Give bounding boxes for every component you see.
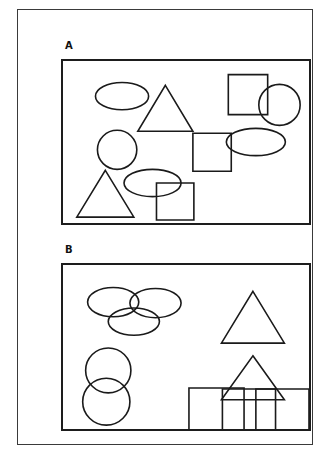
shape-square (193, 133, 231, 171)
shape-circle (83, 378, 130, 425)
shape-square (256, 389, 309, 429)
panel-a-label: A (65, 41, 73, 51)
outer-frame: A B (17, 9, 313, 445)
shape-ellipse (88, 287, 139, 316)
shape-triangle (221, 291, 284, 343)
panel-a-shape-canvas (63, 61, 309, 223)
figure-root: A B (0, 0, 331, 456)
shape-square (222, 389, 275, 429)
shape-square (189, 388, 244, 429)
shape-square (156, 183, 193, 220)
shape-ellipse (108, 308, 159, 335)
shape-ellipse (95, 82, 148, 109)
shape-ellipse (226, 128, 285, 155)
panel-b-label: B (65, 245, 73, 255)
shape-circle (97, 130, 136, 169)
panel-b-shape-canvas (63, 265, 309, 429)
shape-triangle (138, 85, 193, 131)
panel-b-box (61, 263, 311, 431)
shape-triangle (77, 170, 134, 217)
shape-circle (259, 84, 300, 125)
panel-a-box (61, 59, 311, 225)
